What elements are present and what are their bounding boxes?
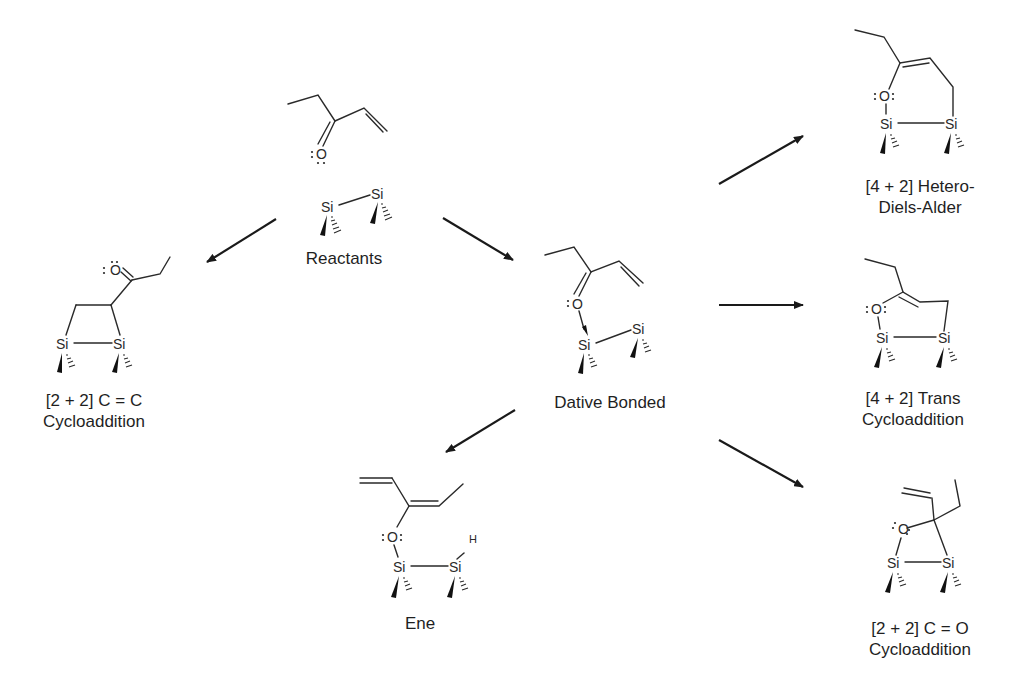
molecule-hda: O Si Si (855, 30, 964, 154)
label-reactants: Reactants (288, 248, 400, 269)
svg-text:O: O (879, 88, 890, 104)
label-ene: Ene (390, 613, 450, 634)
svg-text:O: O (871, 301, 882, 317)
svg-text:Si: Si (880, 116, 892, 132)
svg-text:Si: Si (938, 330, 950, 346)
molecule-cc-cycloaddition: O Si Si (56, 257, 170, 373)
label-dative-bonded: Dative Bonded (540, 392, 680, 413)
label-cc-cycloaddition: [2 + 2] C = C Cycloaddition (14, 390, 174, 432)
svg-text:H: H (469, 533, 477, 545)
svg-text:Si: Si (393, 559, 405, 575)
svg-text:Si: Si (887, 555, 899, 571)
molecule-trans: O Si Si (865, 259, 957, 368)
arrow-reactants-to-dative (443, 218, 513, 260)
molecule-reactants: O Si Si (288, 95, 392, 236)
svg-text:Si: Si (371, 186, 383, 202)
reaction-scheme: O Si Si O Si Si O (0, 0, 1009, 687)
svg-text:Si: Si (321, 199, 333, 215)
arrow-dative-to-ene (446, 410, 515, 452)
svg-text:Si: Si (945, 116, 957, 132)
molecule-co-cycloaddition: O Si Si (885, 480, 961, 593)
arrow-dative-to-co-cycloaddition (719, 440, 803, 487)
svg-text:Si: Si (942, 555, 954, 571)
molecule-dative-bonded: O Si Si (545, 247, 651, 374)
label-trans: [4 + 2] Trans Cycloaddition (848, 388, 978, 430)
svg-text:Si: Si (876, 330, 888, 346)
svg-text:O: O (110, 262, 121, 278)
arrow-dative-to-hda (719, 136, 803, 184)
label-hda: [4 + 2] Hetero- Diels-Alder (850, 176, 990, 218)
svg-text:Si: Si (113, 336, 125, 352)
svg-text:Si: Si (449, 559, 461, 575)
svg-text:Si: Si (632, 321, 644, 337)
svg-text:O: O (387, 529, 398, 545)
svg-text:Si: Si (578, 337, 590, 353)
svg-text:Si: Si (56, 336, 68, 352)
arrow-reactants-to-cc-cycloaddition (207, 219, 276, 262)
svg-text:O: O (316, 146, 327, 162)
label-co-cycloaddition: [2 + 2] C = O Cycloaddition (850, 618, 990, 660)
svg-text:O: O (572, 296, 583, 312)
molecule-ene: O Si Si H (360, 478, 477, 598)
reaction-arrows (207, 136, 803, 487)
